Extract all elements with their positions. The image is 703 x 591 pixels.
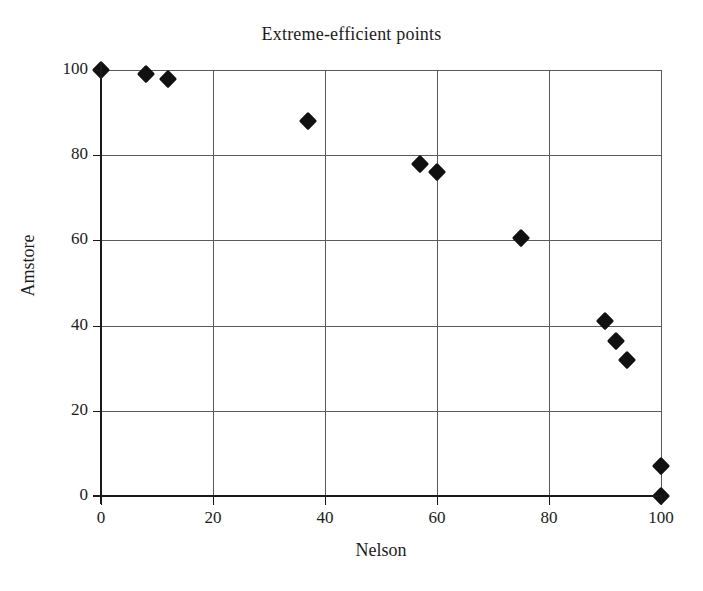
y-axis-line [100,62,102,504]
y-axis-tick [93,70,101,71]
x-axis-tick-label: 40 [295,508,355,528]
scatter-chart: Extreme-efficient points Nelson Amstore … [0,0,703,591]
data-point-marker [159,69,177,87]
x-axis-tick [101,497,102,505]
data-point-marker [652,457,670,475]
y-axis-tick [93,155,101,156]
gridline-vertical [213,70,214,496]
gridline-horizontal [101,411,661,412]
y-axis-tick [93,411,101,412]
x-axis-line [93,495,662,497]
x-axis-tick-label: 100 [631,508,691,528]
x-axis-tick-label: 0 [71,508,131,528]
y-axis-tick-label: 20 [42,400,88,420]
data-point-marker [299,112,317,130]
y-axis-tick-label: 60 [42,229,88,249]
gridline-horizontal [101,70,661,71]
y-axis-tick [93,496,101,497]
y-axis-tick-label: 80 [42,144,88,164]
x-axis-tick [213,497,214,505]
x-axis-tick [325,497,326,505]
gridline-vertical [437,70,438,496]
data-point-marker [512,229,530,247]
y-axis-tick-label: 0 [42,485,88,505]
x-axis-tick [437,497,438,505]
gridline-horizontal [101,326,661,327]
gridline-vertical [325,70,326,496]
data-point-marker [596,312,614,330]
plot-area [101,70,661,496]
x-axis-tick-label: 60 [407,508,467,528]
gridline-vertical [661,70,662,496]
y-axis-tick [93,326,101,327]
x-axis-tick-label: 20 [183,508,243,528]
x-axis-tick [549,497,550,505]
data-point-marker [137,65,155,83]
data-point-marker [618,350,636,368]
gridline-horizontal [101,155,661,156]
y-axis-tick-label: 40 [42,315,88,335]
gridline-vertical [549,70,550,496]
y-axis-label: Amstore [18,186,39,346]
data-point-marker [428,163,446,181]
data-point-marker [607,331,625,349]
y-axis-tick-label: 100 [42,59,88,79]
x-axis-label: Nelson [101,540,661,561]
chart-title: Extreme-efficient points [0,24,703,45]
data-point-marker [411,155,429,173]
x-axis-tick-label: 80 [519,508,579,528]
x-axis-tick [661,497,662,505]
y-axis-tick [93,240,101,241]
gridline-horizontal [101,240,661,241]
